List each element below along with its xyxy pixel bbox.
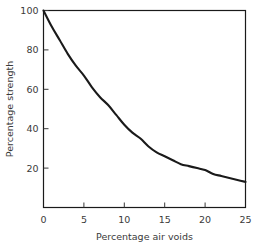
y-tick-label: 80 (26, 44, 38, 55)
y-tick-label: 100 (20, 5, 38, 16)
y-tick-label: 60 (26, 84, 38, 95)
x-tick-label: 10 (118, 214, 130, 225)
chart-figure: 20406080100 0510152025 Percentage air vo… (0, 0, 253, 245)
plot-frame (44, 11, 246, 208)
x-tick-label: 0 (40, 214, 46, 225)
y-axis-title: Percentage strength (4, 61, 15, 157)
x-axis-title: Percentage air voids (96, 231, 193, 242)
percentage-strength-chart: 20406080100 0510152025 Percentage air vo… (0, 0, 253, 245)
x-axis-tick-labels: 0510152025 (40, 214, 251, 225)
x-tick-label: 20 (199, 214, 211, 225)
x-tick-label: 15 (159, 214, 171, 225)
y-axis-tick-labels: 20406080100 (20, 5, 38, 174)
y-tick-label: 20 (26, 163, 38, 174)
y-tick-label: 40 (26, 123, 38, 134)
x-tick-label: 5 (81, 214, 87, 225)
x-tick-label: 25 (239, 214, 251, 225)
